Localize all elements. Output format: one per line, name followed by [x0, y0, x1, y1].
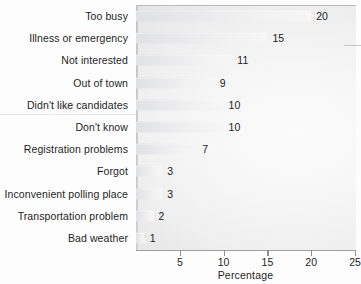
- category-label: Inconvenient polling place: [5, 188, 128, 200]
- bar-value-label: 10: [229, 99, 241, 111]
- x-axis-title: Percentage: [136, 269, 355, 281]
- category-label: Not interested: [61, 54, 128, 66]
- x-axis-line: [136, 250, 355, 251]
- bar-row: Not interested11: [0, 49, 361, 71]
- x-tick-label: 25: [349, 256, 361, 268]
- bar-value-label: 1: [150, 232, 156, 244]
- x-tick-label: 5: [177, 256, 183, 268]
- bar-value-label: 7: [202, 143, 208, 155]
- bar-row: Didn't like candidates10: [0, 94, 361, 116]
- bar-row: Registration problems7: [0, 138, 361, 160]
- bar: [136, 33, 267, 44]
- category-label: Didn't like candidates: [27, 99, 128, 111]
- bar-row: Too busy20: [0, 5, 361, 27]
- bar: [136, 99, 224, 110]
- bar-row: Inconvenient polling place3: [0, 183, 361, 205]
- bar-row: Forgot3: [0, 160, 361, 182]
- bar: [136, 166, 162, 177]
- bar-value-label: 3: [167, 188, 173, 200]
- bar-value-label: 10: [229, 121, 241, 133]
- bar-value-label: 15: [272, 32, 284, 44]
- category-label: Out of town: [73, 77, 128, 89]
- bar: [136, 188, 162, 199]
- bar-value-label: 2: [159, 210, 165, 222]
- category-label: Forgot: [97, 165, 128, 177]
- category-label: Don't know: [75, 121, 128, 133]
- bar: [136, 210, 154, 221]
- category-label: Registration problems: [24, 143, 128, 155]
- x-tick-label: 10: [218, 256, 230, 268]
- category-label: Bad weather: [68, 232, 128, 244]
- category-label: Transportation problem: [18, 210, 128, 222]
- bar-row: Out of town9: [0, 72, 361, 94]
- x-tick-label: 15: [262, 256, 274, 268]
- bar-value-label: 9: [220, 77, 226, 89]
- bar-chart-figure: Too busy20Illness or emergency15Not inte…: [0, 0, 361, 284]
- bar-row: Don't know10: [0, 116, 361, 138]
- bar: [136, 11, 311, 22]
- bar-row: Transportation problem2: [0, 205, 361, 227]
- bar-value-label: 20: [316, 10, 328, 22]
- category-label: Illness or emergency: [29, 32, 128, 44]
- bar: [136, 122, 224, 133]
- bar: [136, 77, 215, 88]
- bar: [136, 233, 145, 244]
- bar-value-label: 11: [237, 54, 248, 66]
- bar-value-label: 3: [167, 165, 173, 177]
- bar: [136, 55, 232, 66]
- x-tick-label: 20: [305, 256, 317, 268]
- bar: [136, 144, 197, 155]
- bar-row: Bad weather1: [0, 227, 361, 249]
- bar-row: Illness or emergency15: [0, 27, 361, 49]
- category-label: Too busy: [85, 10, 128, 22]
